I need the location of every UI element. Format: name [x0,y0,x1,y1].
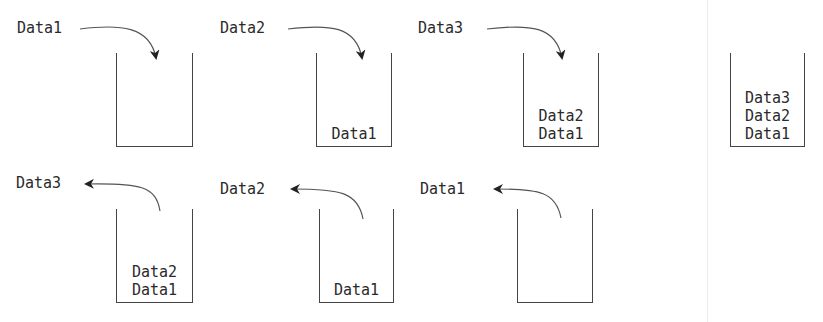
push-label-1: Data1 [17,20,62,37]
stack-item: Data1 [132,281,177,299]
stack-push-3: Data2 Data1 [523,53,599,147]
stack-item: Data1 [745,125,790,143]
stack-final: Data3 Data2 Data1 [730,53,805,147]
stack-push-1 [116,53,193,147]
stack-item: Data1 [331,125,376,143]
stack-item: Data3 [745,89,790,107]
stack-item: Data2 [745,107,790,125]
stack-item: Data2 [132,263,177,281]
pop-label-1: Data3 [16,175,61,192]
stack-push-2: Data1 [316,53,392,147]
stack-item: Data1 [538,125,583,143]
pop-label-2: Data2 [220,181,265,198]
pop-label-3: Data1 [420,181,465,198]
stack-pop-3 [517,209,593,303]
pop-arrow-icon [86,184,160,211]
push-label-2: Data2 [220,20,265,37]
stack-pop-2: Data1 [319,209,394,303]
stack-item: Data2 [538,107,583,125]
push-label-3: Data3 [418,20,463,37]
stack-item: Data1 [334,281,379,299]
stack-pop-1: Data2 Data1 [116,209,193,303]
